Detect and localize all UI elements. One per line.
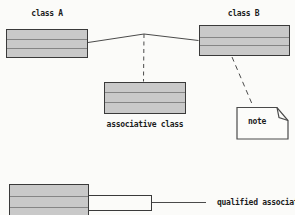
note-fold-corner [277,108,288,121]
associative-class-label: associative class [95,120,195,130]
qualified-class-divider-1 [10,196,88,197]
qualifier-box [88,195,152,211]
class-a-box [6,29,88,58]
associative-class-dashed-line [144,34,145,82]
class-a-divider-2 [7,48,87,49]
note-dashed-line [232,57,253,105]
qualified-association-label: qualified association [217,198,295,208]
class-b-divider-1 [200,37,289,38]
association-line [88,34,199,43]
qualified-class-box [9,184,89,215]
class-a-label: class A [6,9,88,19]
class-b-divider-2 [200,45,289,46]
associative-class-divider-1 [105,92,185,93]
class-b-label: class B [198,9,289,19]
associative-class-divider-2 [105,102,185,103]
diagram-canvas: class A class B associative class qualif… [0,0,295,215]
class-a-divider-1 [7,39,87,40]
class-b-box [199,25,290,56]
associative-class-box [104,82,186,114]
note-label: note [237,117,277,127]
qualified-class-divider-2 [10,207,88,208]
